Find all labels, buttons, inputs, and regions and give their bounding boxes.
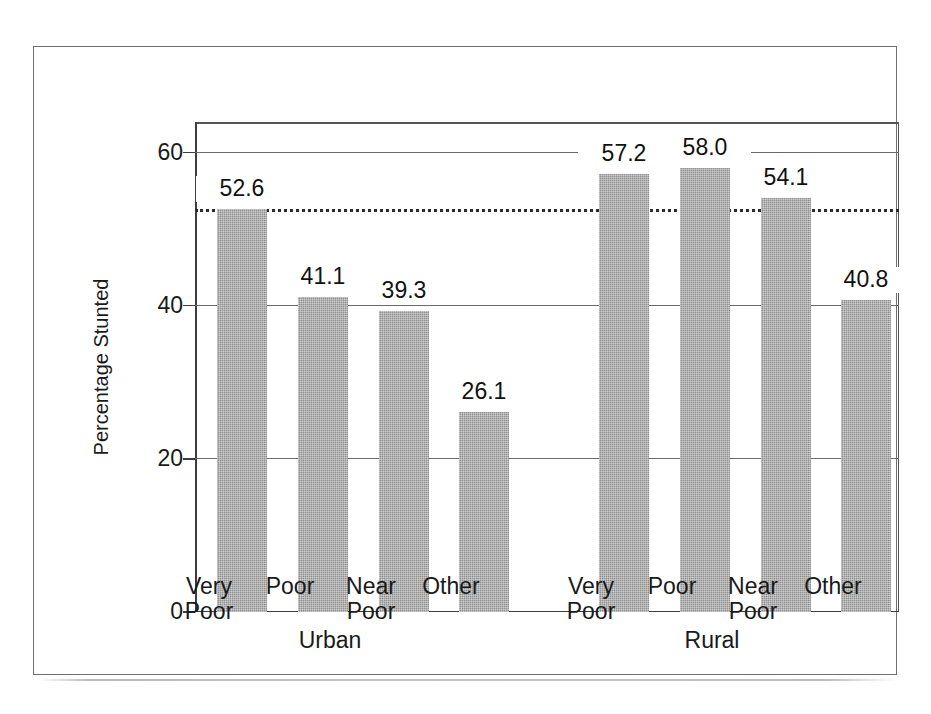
y-tick-label-40: 40	[123, 294, 183, 317]
bar	[217, 209, 267, 612]
bar-value-label: 52.6	[196, 176, 288, 202]
x-category-label-line1: Other	[784, 574, 882, 599]
scan-artifact-line	[38, 679, 896, 681]
bar-value-label: 41.1	[277, 264, 369, 290]
x-category-label-line1: Other	[402, 574, 500, 599]
y-tick-label-60: 60	[123, 141, 183, 164]
figure-frame: 6040200 52.641.139.326.157.258.054.140.8…	[33, 46, 897, 675]
x-category-label-line2: Poor	[542, 599, 640, 624]
x-category-label: Other	[402, 574, 500, 599]
y-tick-60	[183, 152, 195, 153]
x-category-label-line2: Poor	[704, 599, 802, 624]
bar-value-label: 54.1	[740, 165, 832, 191]
bar-value-label: 26.1	[438, 379, 530, 405]
plot-right-border	[898, 122, 900, 612]
bar	[379, 311, 429, 612]
bar	[599, 174, 649, 612]
bar-value-label: 39.3	[358, 278, 450, 304]
y-axis-title-container: Percentage Stunted	[96, 612, 122, 714]
bar-value-label: 58.0	[659, 135, 751, 161]
x-category-label: Other	[784, 574, 882, 599]
y-axis-title: Percentage Stunted	[88, 122, 114, 612]
y-tick-20	[183, 458, 195, 459]
bar	[761, 198, 811, 612]
y-tick-40	[183, 305, 195, 306]
bar	[841, 300, 891, 612]
bar-value-label: 40.8	[820, 267, 912, 293]
x-group-label-rural: Rural	[612, 629, 812, 652]
x-category-label-line2: Poor	[160, 599, 258, 624]
bar	[680, 168, 730, 612]
plot-top-border	[195, 122, 899, 124]
x-category-label-line2: Poor	[322, 599, 420, 624]
gridline-60	[195, 152, 899, 153]
y-tick-label-20: 20	[123, 447, 183, 470]
x-group-label-urban: Urban	[230, 629, 430, 652]
bar-value-label: 57.2	[578, 141, 670, 167]
y-axis-tick-labels: 6040200	[109, 122, 183, 612]
bar	[298, 297, 348, 612]
plot-area: 6040200 52.641.139.326.157.258.054.140.8	[195, 122, 899, 612]
